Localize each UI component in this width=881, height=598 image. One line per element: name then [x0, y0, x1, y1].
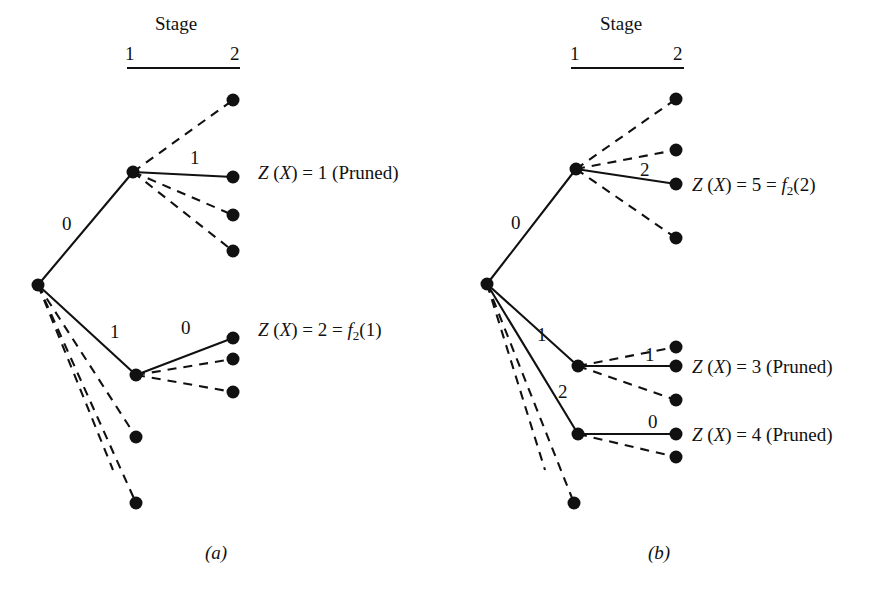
panel-b-edge-root-dashed-b — [487, 284, 545, 470]
panel-a-edge-upper-dashed-3 — [133, 172, 233, 251]
panel-b-node-leaf-m3 — [670, 394, 683, 407]
x-symbol: X — [714, 356, 726, 377]
panel-a-result-upper: Z (X) = 1 (Pruned) — [258, 163, 399, 182]
panel-a-node-root-dashed-leaf-2 — [130, 497, 143, 510]
panel-b-edge-upper-dashed-3 — [576, 169, 676, 238]
x-symbol: X — [280, 162, 292, 183]
panel-b-node-leaf-u2 — [670, 144, 683, 157]
panel-a-edge-root-dashed-b — [38, 285, 136, 503]
panel-a-edge-upper-dashed-2 — [133, 172, 233, 215]
panel-a-edge-lower-solid-1 — [136, 338, 233, 375]
x-symbol: X — [280, 319, 292, 340]
panel-b-edge-label-lower-solid: 0 — [648, 412, 658, 431]
panel-a-edge-root-to-stage1-lower — [38, 285, 136, 375]
panel-a-edge-lower-dashed-1 — [136, 359, 233, 375]
panel-b-stage-tick-2: 2 — [673, 44, 683, 63]
panel-a-node-leaf-u2 — [227, 171, 240, 184]
z-symbol: Z — [258, 319, 269, 340]
panel-b-node-root-dashed-leaf-1 — [568, 497, 581, 510]
panel-b-node-leaf-u1 — [670, 93, 683, 106]
panel-b-edge-upper-solid-1 — [576, 169, 676, 184]
panel-a-edge-upper-dashed-1 — [133, 100, 233, 172]
panel-a-node-root — [32, 279, 45, 292]
panel-a-edge-upper-solid-1 — [133, 172, 233, 177]
panel-b-edge-label-root-lower: 2 — [558, 382, 568, 401]
panel-a-edge-root-dashed-c — [38, 285, 113, 470]
panel-b-edge-lower-dashed-1 — [578, 434, 676, 457]
panel-b-caption: (b) — [648, 543, 670, 562]
z-symbol: Z — [692, 356, 703, 377]
tree-drawing-layer — [0, 0, 881, 598]
f-subscript: 2 — [787, 183, 794, 198]
z-symbol: Z — [258, 162, 269, 183]
panel-b-edge-label-middle-solid: 1 — [645, 345, 655, 364]
panel-a-node-stage1-lower — [130, 369, 143, 382]
panel-a-edge-lower-dashed-2 — [136, 375, 233, 392]
panel-b-edge-root-to-stage1-upper — [487, 169, 576, 284]
panel-a-edge-label-root-upper: 0 — [62, 214, 72, 233]
panel-a-node-stage1-upper — [127, 166, 140, 179]
panel-a-node-leaf-u3 — [227, 209, 240, 222]
panel-b-edge-label-root-upper: 0 — [511, 213, 521, 232]
panel-a-caption: (a) — [205, 543, 227, 562]
panel-a-node-leaf-l3 — [227, 386, 240, 399]
panel-a-stage-title: Stage — [155, 14, 197, 33]
panel-b-result-lower: Z (X) = 4 (Pruned) — [692, 425, 833, 444]
panel-b-node-leaf-m1 — [670, 341, 683, 354]
panel-b-node-stage1-lower — [572, 428, 585, 441]
panel-b-stage-tick-1: 1 — [570, 44, 580, 63]
panel-a-node-leaf-l2 — [227, 353, 240, 366]
panel-b-edge-label-upper-solid: 2 — [640, 160, 650, 179]
panel-a-node-leaf-l1 — [227, 332, 240, 345]
panel-a-edge-root-to-stage1-upper — [38, 172, 133, 285]
panel-b-result-middle: Z (X) = 3 (Pruned) — [692, 357, 833, 376]
panel-a-edge-label-upper-solid: 1 — [190, 148, 200, 167]
z-symbol: Z — [692, 174, 703, 195]
panel-a-node-leaf-u4 — [227, 245, 240, 258]
panel-b-edge-root-to-stage1-lower — [487, 284, 578, 434]
panel-a-result-lower: Z (X) = 2 = f2(1) — [258, 320, 381, 342]
panel-a-edge-label-root-lower: 1 — [110, 322, 120, 341]
panel-b-node-leaf-l2 — [670, 451, 683, 464]
panel-b-edge-middle-dashed-2 — [578, 366, 676, 400]
x-symbol: X — [714, 424, 726, 445]
branch-and-bound-figure: Stage120110Z (X) = 1 (Pruned)Z (X) = 2 =… — [0, 0, 881, 598]
x-symbol: X — [714, 174, 726, 195]
f-subscript: 2 — [353, 328, 360, 343]
panel-b-node-leaf-u3 — [670, 178, 683, 191]
panel-b-node-stage1-middle — [572, 360, 585, 373]
panel-b-edge-label-root-middle: 1 — [537, 325, 547, 344]
panel-b-node-leaf-m2 — [670, 360, 683, 373]
panel-b-stage-title: Stage — [600, 14, 642, 33]
panel-a-stage-tick-1: 1 — [125, 44, 135, 63]
panel-b-result-upper: Z (X) = 5 = f2(2) — [692, 175, 815, 197]
panel-a-node-root-dashed-leaf-1 — [130, 431, 143, 444]
panel-b-node-leaf-u4 — [670, 232, 683, 245]
panel-a-node-leaf-u1 — [227, 94, 240, 107]
panel-a-stage-tick-2: 2 — [230, 44, 240, 63]
z-symbol: Z — [692, 424, 703, 445]
panel-b-node-stage1-upper — [570, 163, 583, 176]
panel-b-edge-middle-dashed-1 — [578, 347, 676, 366]
panel-a-edge-label-lower-solid: 0 — [181, 318, 191, 337]
panel-b-node-root — [481, 278, 494, 291]
panel-b-edge-root-to-stage1-middle — [487, 284, 578, 366]
panel-b-node-leaf-l1 — [670, 428, 683, 441]
